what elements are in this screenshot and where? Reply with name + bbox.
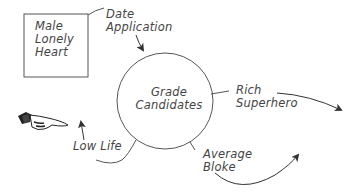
input-flow-label: Date Application bbox=[106, 8, 172, 34]
entity-label: Male Lonely Heart bbox=[35, 20, 74, 59]
rich-connector bbox=[211, 91, 229, 94]
output-2-label: Average Bloke bbox=[203, 148, 252, 174]
pointing-hand-icon bbox=[18, 112, 68, 130]
process-line-2: Candidates bbox=[133, 99, 205, 112]
output-1-label: Rich Superhero bbox=[236, 84, 298, 110]
process-label: Grade Candidates bbox=[133, 86, 205, 112]
average-connector bbox=[190, 142, 195, 150]
entity-line-3: Heart bbox=[35, 46, 74, 59]
output-2-line-2: Bloke bbox=[203, 161, 252, 174]
diagram-canvas: Male Lonely Heart Date Application Grade… bbox=[0, 0, 355, 192]
output-3-line-1: Low Life bbox=[73, 140, 122, 153]
entity-connector bbox=[88, 8, 104, 15]
output-1-line-2: Superhero bbox=[236, 97, 298, 110]
output-3-label: Low Life bbox=[73, 140, 122, 153]
lowlife-arrow bbox=[81, 122, 84, 140]
input-arrow bbox=[136, 35, 143, 50]
input-line-2: Application bbox=[106, 21, 172, 34]
